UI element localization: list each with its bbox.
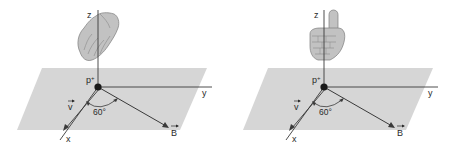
diagram-right-svg: z y x p+ v 60° B bbox=[226, 0, 453, 150]
diagram-left-svg: z y x p+ v 60° B bbox=[0, 0, 226, 150]
z-label: z bbox=[87, 10, 92, 20]
diagram-panel-left: z y x p+ v 60° B bbox=[0, 0, 226, 150]
proton-dot bbox=[320, 83, 327, 90]
b-field-label: B bbox=[171, 128, 177, 138]
velocity-label: v bbox=[68, 102, 73, 112]
b-field-label: B bbox=[397, 128, 403, 138]
x-label: x bbox=[66, 134, 71, 144]
diagram-panel-right: z y x p+ v 60° B bbox=[226, 0, 452, 150]
angle-label: 60° bbox=[93, 107, 106, 117]
z-label: z bbox=[314, 10, 319, 20]
angle-label: 60° bbox=[319, 107, 332, 117]
velocity-label: v bbox=[294, 102, 299, 112]
x-label: x bbox=[292, 134, 297, 144]
xy-plane bbox=[243, 68, 433, 130]
proton-dot bbox=[94, 83, 101, 90]
xy-plane bbox=[17, 68, 207, 130]
y-label: y bbox=[202, 88, 207, 98]
y-label: y bbox=[428, 88, 433, 98]
